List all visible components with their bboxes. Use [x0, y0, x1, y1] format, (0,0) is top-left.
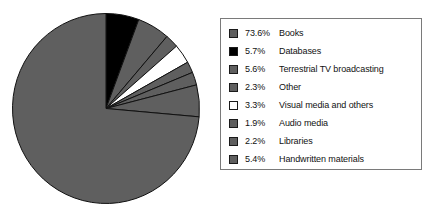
legend-percentage: 1.9% — [245, 118, 279, 128]
legend-color-swatch — [229, 137, 238, 146]
legend-color-swatch — [229, 47, 238, 56]
legend-label: Databases — [279, 46, 321, 56]
pie-slices — [13, 14, 200, 204]
legend-color-swatch — [229, 29, 238, 38]
legend-color-swatch — [229, 65, 238, 74]
legend-label: Libraries — [279, 136, 313, 146]
legend-item: 5.6%Terrestrial TV broadcasting — [229, 60, 417, 78]
legend-item: 5.7%Databases — [229, 42, 417, 60]
legend-item: 2.2%Libraries — [229, 132, 417, 150]
legend-color-swatch — [229, 155, 238, 164]
legend-color-swatch — [229, 101, 238, 110]
legend-percentage: 2.3% — [245, 82, 279, 92]
legend-color-swatch — [229, 119, 238, 128]
legend-percentage: 2.2% — [245, 136, 279, 146]
legend-item: 73.6%Books — [229, 24, 417, 42]
legend-percentage: 73.6% — [245, 28, 279, 38]
legend-percentage: 5.4% — [245, 154, 279, 164]
legend-label: Handwritten materials — [279, 154, 364, 164]
legend-color-swatch — [229, 83, 238, 92]
legend-item: 3.3%Visual media and others — [229, 96, 417, 114]
legend-label: Visual media and others — [279, 100, 373, 110]
pie-chart-graphic — [12, 13, 200, 204]
legend-percentage: 5.7% — [245, 46, 279, 56]
legend-label: Terrestrial TV broadcasting — [279, 64, 384, 74]
pie-svg — [12, 13, 200, 204]
legend-label: Books — [279, 28, 304, 38]
pie-chart-figure: 73.6%Books5.7%Databases5.6%Terrestrial T… — [0, 0, 435, 209]
legend-item: 5.4%Handwritten materials — [229, 150, 417, 168]
legend-percentage: 5.6% — [245, 64, 279, 74]
chart-legend: 73.6%Books5.7%Databases5.6%Terrestrial T… — [220, 18, 422, 170]
legend-item-list: 73.6%Books5.7%Databases5.6%Terrestrial T… — [229, 24, 417, 168]
legend-label: Other — [279, 82, 301, 92]
legend-item: 2.3%Other — [229, 78, 417, 96]
legend-item: 1.9%Audio media — [229, 114, 417, 132]
legend-label: Audio media — [279, 118, 328, 128]
legend-percentage: 3.3% — [245, 100, 279, 110]
